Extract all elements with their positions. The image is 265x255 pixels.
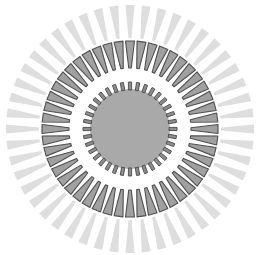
inner-tooth bbox=[166, 141, 175, 147]
trapezoid-segment bbox=[114, 41, 123, 69]
ray bbox=[221, 125, 254, 134]
ray bbox=[126, 220, 135, 253]
inner-tooth bbox=[120, 82, 125, 90]
inner-tooth bbox=[159, 98, 167, 106]
ray bbox=[9, 151, 42, 165]
ray bbox=[6, 125, 39, 134]
inner-tooth bbox=[154, 158, 162, 166]
inner-tooth bbox=[112, 165, 118, 174]
inner-tooth bbox=[99, 92, 107, 100]
ray bbox=[140, 5, 150, 39]
inner-tooth bbox=[135, 167, 140, 175]
trapezoid-segment bbox=[114, 189, 123, 217]
inner-tooth bbox=[120, 167, 125, 175]
ray bbox=[152, 217, 166, 250]
inner-tooth bbox=[85, 141, 94, 147]
inner-tooth bbox=[85, 111, 94, 117]
trapezoid-segment bbox=[191, 125, 218, 134]
trapezoid-segment bbox=[42, 113, 70, 122]
ray bbox=[218, 93, 251, 107]
inner-tooth bbox=[168, 134, 176, 139]
inner-tooth bbox=[128, 168, 131, 176]
inner-tooth bbox=[83, 119, 91, 124]
inner-tooth bbox=[163, 147, 172, 154]
ray bbox=[9, 93, 42, 107]
inner-tooth bbox=[169, 127, 177, 130]
inner-tooth bbox=[148, 162, 155, 171]
inner-tooth bbox=[105, 88, 112, 97]
inner-tooth bbox=[83, 127, 91, 130]
trapezoid-segment bbox=[190, 113, 218, 122]
inner-tooth bbox=[89, 147, 98, 154]
ray bbox=[109, 219, 119, 253]
ray bbox=[220, 108, 254, 118]
trapezoid-segment bbox=[137, 41, 146, 69]
trapezoid-segment bbox=[42, 136, 70, 145]
ray bbox=[218, 151, 251, 165]
trapezoid-segment bbox=[126, 41, 135, 68]
trapezoid-segment bbox=[137, 189, 146, 217]
inner-tooth bbox=[93, 153, 101, 161]
inner-tooth bbox=[163, 104, 172, 111]
ray bbox=[6, 108, 40, 118]
trapezoid-segment bbox=[42, 125, 69, 134]
trapezoid-segment bbox=[126, 190, 135, 217]
inner-tooth bbox=[142, 165, 148, 174]
radial-diagram bbox=[0, 0, 265, 255]
ray bbox=[140, 219, 150, 253]
inner-tooth bbox=[93, 98, 101, 106]
inner-tooth bbox=[99, 158, 107, 166]
ray bbox=[220, 139, 254, 149]
inner-tooth bbox=[83, 134, 91, 139]
inner-tooth bbox=[154, 92, 162, 100]
inner-tooth bbox=[105, 162, 112, 171]
trapezoid-segment bbox=[190, 136, 218, 145]
inner-tooth bbox=[142, 84, 148, 93]
inner-tooth bbox=[112, 84, 118, 93]
ray bbox=[94, 8, 108, 41]
inner-tooth bbox=[128, 82, 131, 90]
ray bbox=[109, 5, 119, 39]
ray bbox=[152, 8, 166, 41]
core-disc bbox=[90, 89, 170, 169]
inner-tooth bbox=[159, 153, 167, 161]
ray bbox=[6, 139, 40, 149]
inner-tooth bbox=[168, 119, 176, 124]
ray bbox=[94, 217, 108, 250]
inner-tooth bbox=[135, 82, 140, 90]
inner-tooth bbox=[89, 104, 98, 111]
radial-diagram-svg bbox=[0, 0, 265, 255]
ray bbox=[126, 5, 135, 38]
inner-tooth bbox=[166, 111, 175, 117]
inner-tooth bbox=[148, 88, 155, 97]
